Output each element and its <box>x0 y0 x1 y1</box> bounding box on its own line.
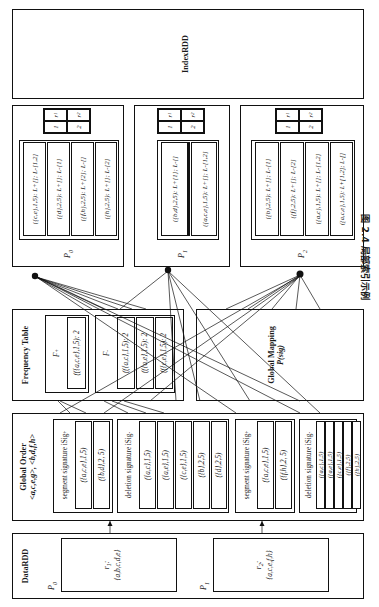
indexrdd-partition-2-mini-table: 1 r1 2 r2 <box>275 108 323 134</box>
indexrdd-title: IndexRDD <box>181 10 190 98</box>
mini-cell-key-1: 1 <box>44 121 67 133</box>
mini-cell-key-1: 1 <box>276 121 299 133</box>
figure-caption: 图 2.4 局部索引示例 <box>359 214 373 300</box>
indexrdd-partition-1-mini-table: 1 r1 2 r2 <box>157 108 205 134</box>
indexrdd-partition-1-rows: ({b,d},2,5): L+[1]; L-[] ({a,c,e},1,5): … <box>157 140 219 240</box>
indexrdd-partition-2-rows: ({b},2,5): L+[]; L-[1] ({f},2,5): L+[]; … <box>251 140 355 240</box>
indexrdd-partition-0-rows: ({c,e},1,5): L+[]; L-[1,2] ({d},2,5): L+… <box>19 140 119 240</box>
indexrdd-partition-2-row-3: ({a,c,e},1,5): L+[1,2]; L-[] <box>330 142 353 236</box>
indexrdd-partition-0-row-3: ({h},2,5): L+[]; L-[2] <box>95 142 117 236</box>
indexrdd-partition-0-row-2: ({f,h},2,5): L+[2]; L-[] <box>71 142 94 236</box>
mini-cell-key-1: 1 <box>158 121 181 133</box>
mini-cell-val-1: r1 <box>44 109 67 121</box>
indexrdd-partition-0-label: P0 <box>63 250 74 258</box>
mini-cell-key-2: 2 <box>67 121 90 133</box>
indexrdd-partition-1-row-0: ({b,d},2,5): L+[1]; L-[] <box>161 142 188 236</box>
figure-rotated-wrapper: DataRDD P0 r1: {a,b,c,d,e} P1 r2: {a,c,e… <box>0 0 379 607</box>
indexrdd-partition-1-row-1: ({a,c,e},1,5): L+[]; L-[1,2] <box>191 142 217 236</box>
indexrdd-partition-1-label: P1 <box>177 250 188 258</box>
indexrdd-partition-0-row-1: ({d},2,5): L+[]; L-[1] <box>47 142 70 236</box>
figure-canvas: DataRDD P0 r1: {a,b,c,d,e} P1 r2: {a,c,e… <box>0 0 379 607</box>
indexrdd-partition-2-row-0: ({b},2,5): L+[]; L-[1] <box>255 142 279 236</box>
panel-indexrdd: IndexRDD <box>12 9 364 99</box>
indexrdd-partition-1: P1 ({b,d},2,5): L+[1]; L-[] ({a,c,e},1,5… <box>134 105 230 267</box>
indexrdd-partition-2-label: P2 <box>297 250 308 258</box>
mini-cell-key-2: 2 <box>181 121 204 133</box>
mini-cell-val-1: r1 <box>276 109 299 121</box>
indexrdd-partition-0-row-0: ({c,e},1,5): L+[]; L-[1,2] <box>23 142 46 236</box>
mini-cell-val-1: r1 <box>158 109 181 121</box>
indexrdd-partition-2: P2 ({b},2,5): L+[]; L-[1] ({f},2,5): L+[… <box>240 105 364 267</box>
mini-cell-val-2: r2 <box>299 109 322 121</box>
indexrdd-partition-0: P0 ({c,e},1,5): L+[]; L-[1,2] ({d},2,5):… <box>12 105 124 267</box>
indexrdd-partition-2-row-1: ({f},2,5): L+[]; L-[2] <box>280 142 304 236</box>
local-index-diagram: DataRDD P0 r1: {a,b,c,d,e} P1 r2: {a,c,e… <box>0 0 379 607</box>
indexrdd-partition-0-mini-table: 1 r1 2 r2 <box>43 108 91 134</box>
mini-cell-val-2: r2 <box>67 109 90 121</box>
figure-caption-text: 图 2.4 局部索引示例 <box>360 214 371 300</box>
indexrdd-partition-2-row-2: ({a,c},1,5): L+[]; L-[1,2] <box>305 142 329 236</box>
mini-cell-val-2: r2 <box>181 109 204 121</box>
mini-cell-key-2: 2 <box>299 121 322 133</box>
